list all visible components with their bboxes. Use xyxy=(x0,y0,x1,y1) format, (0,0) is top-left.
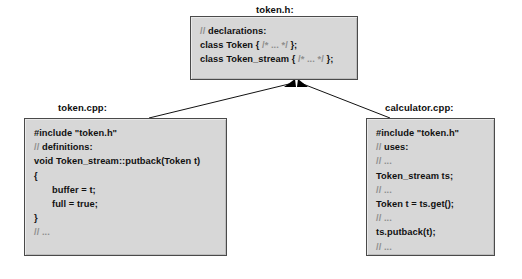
comment-slashes: // xyxy=(34,142,42,152)
code-line: void Token_stream::putback(Token t) xyxy=(34,154,218,168)
code-suffix: }; xyxy=(324,54,333,64)
code-line: Token t = ts.get(); xyxy=(376,197,486,211)
code-text: class Token { xyxy=(200,40,262,50)
comment-text: // ... xyxy=(376,213,392,223)
code-line: class Token { /* ... */ }; xyxy=(200,38,349,52)
comment-text: uses: xyxy=(384,142,409,152)
comment-text: declarations: xyxy=(208,26,267,36)
code-suffix: }; xyxy=(288,40,297,50)
code-text: buffer = t; xyxy=(52,185,96,195)
comment-text: // ... xyxy=(34,227,50,237)
code-line: Token_stream ts; xyxy=(376,169,486,183)
diagram-canvas: token.h: // declarations: class Token { … xyxy=(0,0,522,279)
code-line: // uses: xyxy=(376,140,486,154)
code-line: buffer = t; xyxy=(34,183,218,197)
comment-text: definitions: xyxy=(42,142,93,152)
inline-comment: /* ... */ xyxy=(262,40,288,50)
arrow-line-calculator-cpp xyxy=(303,84,390,118)
code-text: ts.putback(t); xyxy=(376,227,436,237)
comment-slashes: // xyxy=(376,142,384,152)
comment-text: // ... xyxy=(376,185,392,195)
code-text: class Token_stream { xyxy=(200,54,298,64)
label-calculator-cpp: calculator.cpp: xyxy=(385,102,454,113)
code-line: // declarations: xyxy=(200,24,349,38)
code-line: #include "token.h" xyxy=(34,126,218,140)
arrowhead-calculator-cpp xyxy=(297,79,308,87)
arrow-line-token-cpp xyxy=(149,84,289,118)
code-text: { xyxy=(34,171,38,181)
code-text: #include "token.h" xyxy=(376,128,459,138)
code-text: void Token_stream::putback(Token t) xyxy=(34,156,200,166)
code-text: full = true; xyxy=(52,199,98,209)
code-line: ts.putback(t); xyxy=(376,225,486,239)
code-line: // ... xyxy=(376,211,486,225)
code-text: } xyxy=(34,213,38,223)
comment-text: // ... xyxy=(376,242,392,252)
label-token-h: token.h: xyxy=(256,4,294,15)
code-line: // ... xyxy=(376,154,486,168)
label-token-cpp: token.cpp: xyxy=(58,102,107,113)
code-line: { xyxy=(34,169,218,183)
comment-slashes: // xyxy=(200,26,208,36)
code-line: } xyxy=(34,211,218,225)
code-line: #include "token.h" xyxy=(376,126,486,140)
arrowhead-token-cpp xyxy=(284,79,296,87)
code-line: // ... xyxy=(376,183,486,197)
code-text: Token t = ts.get(); xyxy=(376,199,454,209)
code-body-calculator-cpp: #include "token.h" // uses: // ... Token… xyxy=(367,119,494,256)
inline-comment: /* ... */ xyxy=(298,54,324,64)
comment-text: // ... xyxy=(376,156,392,166)
code-body-token-cpp: #include "token.h" // definitions: void … xyxy=(25,119,226,246)
code-text: #include "token.h" xyxy=(34,128,117,138)
code-box-calculator-cpp: #include "token.h" // uses: // ... Token… xyxy=(366,118,495,256)
code-line: full = true; xyxy=(34,197,218,211)
code-text: Token_stream ts; xyxy=(376,171,453,181)
code-box-token-cpp: #include "token.h" // definitions: void … xyxy=(24,118,227,256)
code-line: class Token_stream { /* ... */ }; xyxy=(200,52,349,66)
code-box-token-h: // declarations: class Token { /* ... */… xyxy=(190,16,358,80)
code-line: // ... xyxy=(34,225,218,239)
code-line: // definitions: xyxy=(34,140,218,154)
code-line: // ... xyxy=(376,240,486,254)
code-body-token-h: // declarations: class Token { /* ... */… xyxy=(191,17,357,73)
